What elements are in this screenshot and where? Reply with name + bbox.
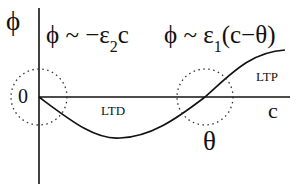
formula-right-subscript: 1 [214, 38, 222, 55]
formula-right-suffix: (c−θ) [222, 21, 276, 48]
formula-left-suffix: c [118, 21, 129, 48]
phi-curve [39, 50, 285, 138]
formula-left: ϕ ~ −ε2c [46, 22, 129, 47]
origin-label: 0 [18, 86, 28, 106]
x-axis-label: c [268, 100, 278, 122]
ltp-label: LTP [256, 70, 278, 83]
formula-left-prefix: ϕ ~ −ε [46, 21, 110, 48]
formula-right-prefix: ϕ ~ ε [164, 21, 214, 48]
ltd-label: LTD [101, 104, 125, 117]
formula-right: ϕ ~ ε1(c−θ) [164, 22, 276, 47]
y-axis-label: ϕ [6, 8, 20, 35]
plasticity-diagram: ϕ ϕ ~ −ε2c ϕ ~ ε1(c−θ) 0 LTD LTP c θ [0, 0, 298, 195]
formula-left-subscript: 2 [110, 38, 118, 55]
threshold-label: θ [203, 128, 216, 155]
